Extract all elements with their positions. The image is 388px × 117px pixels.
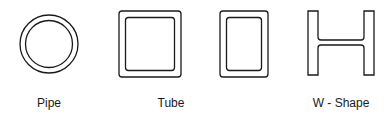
w-shape-label: W - Shape	[313, 96, 370, 110]
rect-tube-inner-wall	[227, 18, 262, 71]
square-tube-cross-section	[119, 11, 181, 77]
w-shape-cross-section	[308, 11, 374, 75]
pipe-outer-wall	[20, 15, 78, 73]
square-tube-inner-wall	[126, 18, 175, 71]
square-tube-outer-wall	[119, 11, 181, 77]
pipe-inner-wall	[26, 21, 73, 68]
pipe-cross-section	[20, 15, 78, 73]
rect-tube-cross-section	[220, 11, 268, 77]
tube-label: Tube	[158, 96, 185, 110]
rect-tube-outer-wall	[220, 11, 268, 77]
pipe-label: Pipe	[37, 96, 61, 110]
